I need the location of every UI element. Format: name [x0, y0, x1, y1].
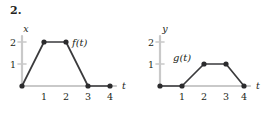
x-tick-label-4: 4 [107, 91, 113, 102]
y-axis-label: x [23, 23, 29, 34]
y-tick-label-2: 2 [10, 37, 16, 48]
data-point [201, 61, 206, 66]
y-tick-label-2: 2 [148, 37, 154, 48]
data-point [85, 83, 90, 88]
data-line-g [160, 64, 244, 86]
chart-g: 1 2 1 2 3 4 y t g(t) [132, 22, 264, 120]
data-point [157, 83, 162, 88]
y-axis-label: y [161, 23, 168, 34]
curve-label-g: g(t) [173, 52, 191, 63]
x-tick-label-2: 2 [63, 91, 69, 102]
x-tick-label-1: 1 [41, 91, 47, 102]
data-line-f [22, 42, 110, 86]
y-tick-label-1: 1 [10, 59, 16, 70]
x-tick-label-3: 3 [85, 91, 91, 102]
problem-number: 2. [10, 4, 22, 17]
data-point [241, 83, 246, 88]
x-axis-label: t [122, 80, 126, 91]
x-tick-label-2: 2 [201, 91, 207, 102]
x-tick-label-4: 4 [241, 91, 247, 102]
curve-label-f: f(t) [71, 37, 88, 48]
data-point [107, 83, 112, 88]
data-point [63, 39, 68, 44]
y-tick-label-1: 1 [148, 59, 154, 70]
data-point [223, 61, 228, 66]
x-tick-label-3: 3 [223, 91, 229, 102]
chart-f: 1 2 1 2 3 4 x t f(t) [0, 22, 132, 120]
data-point [41, 39, 46, 44]
data-point [19, 83, 24, 88]
x-axis-label: t [256, 80, 260, 91]
x-tick-label-1: 1 [179, 91, 185, 102]
data-point [179, 83, 184, 88]
figure-page: 2. 1 2 1 2 3 4 x [0, 0, 264, 120]
